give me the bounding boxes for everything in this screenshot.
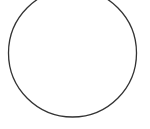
- drawing-canvas: [0, 0, 150, 129]
- circle-shape: [9, 0, 137, 117]
- diagram-svg: [0, 0, 150, 129]
